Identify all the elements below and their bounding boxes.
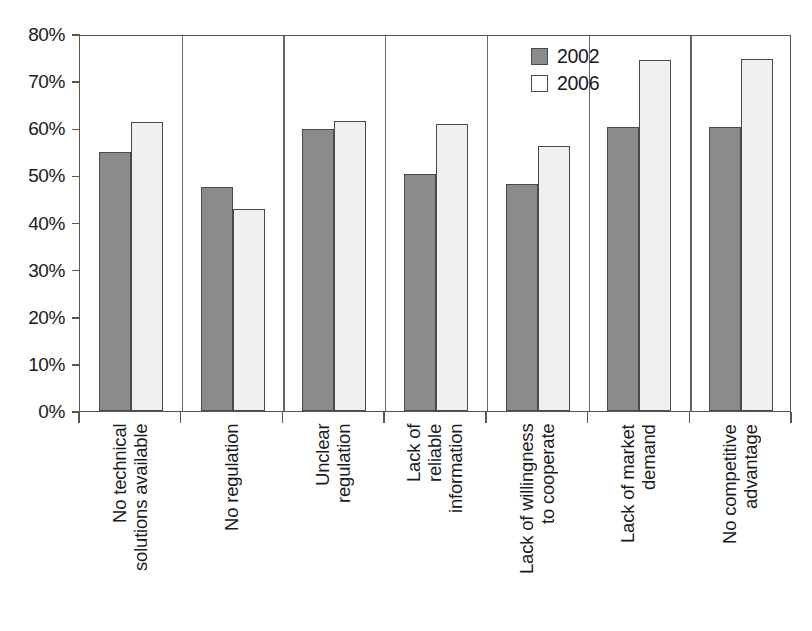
x-category-label-line: No technical bbox=[109, 424, 130, 614]
legend-item: 2006 bbox=[531, 71, 599, 95]
bar-2006-6 bbox=[741, 59, 773, 411]
x-category-label-line: reliable bbox=[424, 424, 445, 614]
x-category-label: Unclearregulation bbox=[282, 424, 384, 614]
bar-2006-3 bbox=[436, 124, 468, 411]
x-category-label-line: demand bbox=[638, 424, 659, 614]
x-tick-mark bbox=[485, 412, 486, 423]
bar-2002-3 bbox=[404, 174, 436, 411]
x-tick-mark bbox=[78, 412, 79, 423]
bar-2002-6 bbox=[709, 127, 741, 411]
y-tick-label: 60% bbox=[28, 119, 65, 138]
x-tick-mark bbox=[689, 412, 690, 423]
plot-area bbox=[79, 35, 791, 412]
bar-2006-4 bbox=[538, 146, 570, 411]
bar-2002-5 bbox=[607, 127, 639, 411]
legend-label: 2002 bbox=[557, 46, 599, 66]
x-category-label-line: regulation bbox=[333, 424, 354, 614]
x-category-label: No technicalsolutions available bbox=[79, 424, 181, 614]
x-category-label-line: Lack of bbox=[403, 424, 424, 614]
y-tick-label: 30% bbox=[28, 261, 65, 280]
x-tick-mark bbox=[180, 412, 181, 423]
x-category-label-line: No competitive bbox=[719, 424, 740, 614]
x-category-label-line: Lack of willingness bbox=[516, 424, 537, 614]
bar-2002-4 bbox=[506, 184, 538, 411]
y-tick-label: 70% bbox=[28, 72, 65, 91]
x-category-label: Lack of marketdemand bbox=[588, 424, 690, 614]
x-tick-mark bbox=[790, 412, 791, 423]
y-tick-label: 20% bbox=[28, 308, 65, 327]
bar-2002-2 bbox=[302, 129, 334, 411]
bar-2006-2 bbox=[334, 121, 366, 411]
x-category-label-line: No regulation bbox=[221, 424, 242, 614]
x-axis-labels: No technicalsolutions availableNo regula… bbox=[79, 424, 791, 624]
chart-legend: 20022006 bbox=[531, 44, 599, 95]
x-category-label-line: solutions available bbox=[130, 424, 151, 614]
band-separator bbox=[283, 36, 284, 411]
bar-2006-0 bbox=[131, 122, 163, 411]
band-separator bbox=[385, 36, 386, 411]
y-tick-label: 0% bbox=[38, 402, 65, 421]
y-tick-label: 50% bbox=[28, 166, 65, 185]
x-category-label-line: Lack of market bbox=[617, 424, 638, 614]
y-tick-label: 80% bbox=[28, 25, 65, 44]
legend-label: 2006 bbox=[557, 73, 599, 93]
y-tick-label: 40% bbox=[28, 214, 65, 233]
bar-2006-5 bbox=[639, 60, 671, 411]
plot-inner bbox=[80, 36, 790, 411]
bar-2006-1 bbox=[233, 209, 265, 411]
x-category-label-line: advantage bbox=[740, 424, 761, 614]
x-category-label-line: information bbox=[445, 424, 466, 614]
legend-item: 2002 bbox=[531, 44, 599, 68]
bar-chart: 80%70%60%50%40%30%20%10%0% No technicals… bbox=[0, 0, 812, 631]
x-tick-mark bbox=[282, 412, 283, 423]
legend-swatch-icon bbox=[531, 75, 548, 92]
y-tick-label: 10% bbox=[28, 355, 65, 374]
x-tick-mark bbox=[587, 412, 588, 423]
bar-2002-1 bbox=[201, 187, 233, 411]
x-category-label-line: to cooperate bbox=[537, 424, 558, 614]
bar-2002-0 bbox=[99, 152, 131, 411]
band-separator bbox=[182, 36, 183, 411]
band-separator bbox=[487, 36, 488, 411]
x-axis-ticks bbox=[79, 412, 791, 424]
x-category-label: No regulation bbox=[181, 424, 283, 614]
band-separator bbox=[690, 36, 691, 411]
x-category-label-line: Unclear bbox=[312, 424, 333, 614]
x-category-label: No competitiveadvantage bbox=[689, 424, 791, 614]
y-axis: 80%70%60%50%40%30%20%10%0% bbox=[0, 0, 79, 412]
legend-swatch-icon bbox=[531, 48, 548, 65]
x-tick-mark bbox=[383, 412, 384, 423]
x-category-label: Lack of willingnessto cooperate bbox=[486, 424, 588, 614]
x-category-label: Lack ofreliableinformation bbox=[384, 424, 486, 614]
